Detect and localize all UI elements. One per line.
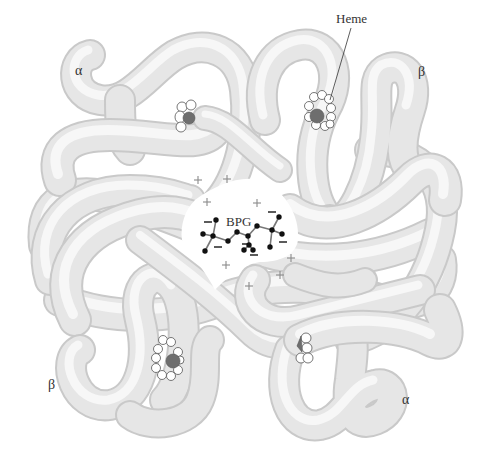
atom [246, 242, 251, 247]
heme-label: Heme [336, 11, 367, 26]
atom [234, 229, 239, 234]
hemoglobin-diagram: BPG [0, 0, 486, 452]
heme-iron [166, 354, 180, 368]
atom [202, 248, 207, 253]
diagram-canvas: BPG [0, 0, 486, 452]
atom [200, 231, 205, 236]
heme-iron [310, 109, 324, 123]
atom [225, 238, 230, 243]
atom [276, 214, 281, 219]
subunit-label-alpha-bottom-right: α [402, 392, 410, 407]
atom [210, 233, 215, 238]
heme-iron [183, 112, 195, 124]
subunit-label-beta-bottom-left: β [48, 377, 55, 392]
atom [267, 244, 272, 249]
atom [241, 247, 246, 252]
bpg-label: BPG [226, 214, 251, 229]
atom [279, 231, 284, 236]
subunit-label-beta-top-right: β [418, 64, 425, 79]
atom [250, 247, 255, 252]
subunit-label-alpha-top-left: α [75, 63, 83, 78]
atom [269, 227, 274, 232]
atom [213, 217, 218, 222]
atom [254, 223, 259, 228]
atom [245, 233, 250, 238]
plus-sign [194, 176, 202, 184]
